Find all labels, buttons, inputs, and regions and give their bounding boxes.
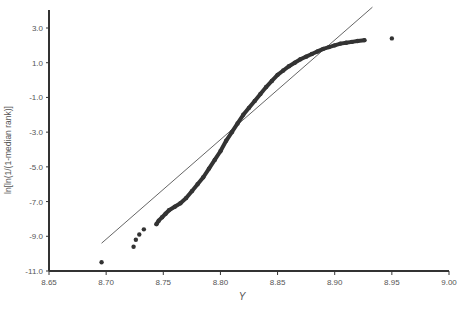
data-point <box>195 182 199 186</box>
x-tick-label: 8.85 <box>270 278 286 287</box>
data-point <box>201 175 205 179</box>
data-point <box>235 121 239 125</box>
x-tick-label: 8.75 <box>155 278 171 287</box>
y-axis-ticks: 3.01.0-1.0-3.0-5.0-7.0-9.0-11.0 <box>25 24 49 276</box>
data-point <box>253 99 257 103</box>
data-point <box>157 218 161 222</box>
data-point <box>287 64 291 68</box>
data-point <box>160 215 164 219</box>
x-tick-label: 9.00 <box>441 278 457 287</box>
y-tick-label: 1.0 <box>32 59 44 68</box>
x-tick-label: 8.70 <box>98 278 114 287</box>
data-point <box>275 73 279 77</box>
data-point <box>134 238 138 242</box>
data-point <box>390 36 394 40</box>
data-point <box>321 47 325 51</box>
x-tick-label: 8.65 <box>41 278 57 287</box>
data-point <box>137 232 141 236</box>
y-tick-label: -1.0 <box>29 93 43 102</box>
x-tick-label: 8.95 <box>384 278 400 287</box>
data-point <box>142 227 146 231</box>
data-point <box>131 245 135 249</box>
data-point <box>298 57 302 61</box>
y-tick-label: -11.0 <box>25 267 43 276</box>
data-point <box>163 212 167 216</box>
data-point <box>362 38 366 42</box>
data-point <box>293 61 297 65</box>
data-point <box>281 68 285 72</box>
data-point <box>327 45 331 49</box>
data-point <box>247 106 251 110</box>
data-point <box>264 85 268 89</box>
y-tick-label: -3.0 <box>29 128 43 137</box>
data-point <box>310 52 314 56</box>
data-point <box>338 41 342 45</box>
data-point <box>99 260 103 264</box>
data-point <box>258 92 262 96</box>
data-point <box>167 208 171 212</box>
x-tick-label: 8.80 <box>213 278 229 287</box>
data-point <box>207 166 211 170</box>
data-point <box>184 196 188 200</box>
x-axis-title: Y <box>239 291 247 302</box>
data-points <box>99 36 394 264</box>
data-point <box>213 158 217 162</box>
weibull-probability-plot: ln[ln(1/(1-median rank)] 3.01.0-1.0-3.0-… <box>0 0 464 310</box>
x-tick-label: 8.90 <box>327 278 343 287</box>
x-axis-ticks: 8.658.708.758.808.858.908.959.00 <box>41 271 457 287</box>
y-tick-label: -9.0 <box>29 232 43 241</box>
data-point <box>190 189 194 193</box>
data-point <box>224 139 228 143</box>
y-tick-label: 3.0 <box>32 24 44 33</box>
data-point <box>315 49 319 53</box>
data-point <box>344 41 348 45</box>
data-point <box>178 201 182 205</box>
data-point <box>333 43 337 47</box>
y-axis-title: ln[ln(1/(1-median rank)] <box>3 106 13 194</box>
y-tick-label: -7.0 <box>29 198 43 207</box>
data-point <box>270 79 274 83</box>
data-point <box>350 40 354 44</box>
data-point <box>241 113 245 117</box>
data-point <box>355 39 359 43</box>
y-axis-title-group: ln[ln(1/(1-median rank)] <box>3 106 13 194</box>
data-point <box>218 149 222 153</box>
data-point <box>304 54 308 58</box>
y-tick-label: -5.0 <box>29 163 43 172</box>
data-point <box>230 130 234 134</box>
data-point <box>173 205 177 209</box>
